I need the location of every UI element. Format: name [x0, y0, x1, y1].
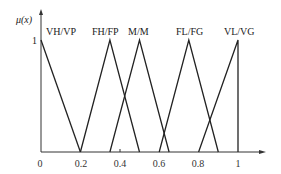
y-tick-1: 1 [32, 36, 37, 46]
series-line-m-m [110, 40, 169, 152]
x-tick-label-0: 0 [38, 159, 43, 169]
series-label-m-m: M/M [128, 27, 149, 37]
y-axis-label: μ(x) [16, 15, 32, 25]
series-line-fl-fg [159, 40, 218, 152]
x-tick-label-0.2: 0.2 [75, 159, 88, 169]
y-axis-arrow-icon [39, 9, 43, 15]
x-axis-arrow-icon [259, 150, 266, 154]
series-line-vh-vp [41, 40, 80, 152]
x-tick-label-1: 1 [236, 159, 241, 169]
series-line-fh-fp [80, 40, 139, 152]
series-line-vl-vg [199, 40, 238, 152]
series-label-fh-fp: FH/FP [92, 27, 119, 37]
series-label-vl-vg: VL/VG [224, 27, 255, 37]
x-tick-label-0.6: 0.6 [153, 159, 166, 169]
series-label-vh-vp: VH/VP [46, 27, 76, 37]
x-tick-label-0.4: 0.4 [114, 159, 127, 169]
x-tick-label-0.8: 0.8 [192, 159, 205, 169]
series-label-fl-fg: FL/FG [176, 27, 203, 37]
